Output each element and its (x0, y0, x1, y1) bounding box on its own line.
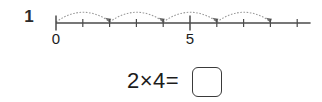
equation-row: 2×4= (0, 62, 322, 102)
axis-label-five: 5 (178, 31, 202, 47)
number-line-diagram: 0 5 (0, 0, 322, 52)
jump-arrowhead (212, 18, 218, 23)
axis-label-zero: 0 (44, 31, 68, 47)
jump-arrowhead (159, 18, 165, 23)
jump-arrowhead (105, 18, 111, 23)
jump-arrowhead (266, 18, 272, 23)
equation-expression: 2×4= (127, 66, 179, 96)
worksheet-problem: 1 0 5 2×4= (0, 0, 322, 102)
jump-arcs-group (56, 12, 272, 23)
answer-input-box[interactable] (192, 67, 222, 97)
